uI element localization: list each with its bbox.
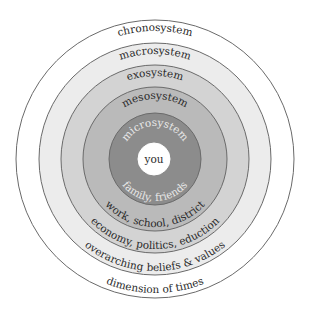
ecological-systems-diagram: chronosystem macrosystem exosystem mesos… — [0, 0, 309, 319]
center-label: you — [143, 153, 163, 165]
